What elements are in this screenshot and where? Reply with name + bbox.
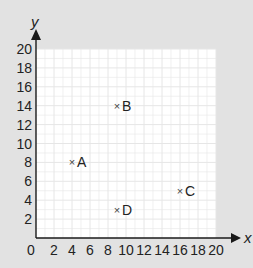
point-label-c: C [185, 183, 195, 199]
point-marker-icon: × [114, 204, 120, 216]
y-tick-label: 4 [24, 192, 32, 208]
point-marker-icon: × [69, 156, 75, 168]
y-tick-label: 18 [16, 60, 32, 76]
y-tick-label: 10 [16, 136, 32, 152]
point-label-a: A [77, 154, 87, 170]
y-tick-label: 2 [24, 211, 32, 227]
point-label-d: D [122, 202, 132, 218]
x-tick-label: 2 [50, 242, 58, 258]
y-tick-label: 6 [24, 173, 32, 189]
point-label-b: B [122, 98, 131, 114]
point-marker-icon: × [177, 185, 183, 197]
y-tick-label: 20 [16, 41, 32, 57]
y-tick-label: 16 [16, 79, 32, 95]
coordinate-grid-chart: xy024681012141618202468101214161820×A×B×… [0, 0, 253, 268]
y-tick-label: 8 [24, 154, 32, 170]
x-tick-label: 10 [118, 242, 134, 258]
x-axis-arrow-icon [231, 233, 241, 243]
y-tick-label: 12 [16, 117, 32, 133]
x-tick-label: 8 [104, 242, 112, 258]
x-axis-label: x [243, 229, 252, 246]
x-tick-label: 14 [154, 242, 170, 258]
x-tick-label: 12 [136, 242, 152, 258]
x-tick-label: 0 [27, 242, 35, 258]
x-tick-label: 4 [68, 242, 76, 258]
y-axis-arrow-icon [31, 29, 41, 40]
plot-area: xy024681012141618202468101214161820×A×B×… [16, 13, 252, 258]
x-tick-label: 16 [172, 242, 188, 258]
y-axis-label: y [30, 13, 40, 30]
point-marker-icon: × [114, 100, 120, 112]
x-tick-label: 6 [86, 242, 94, 258]
x-tick-label: 20 [208, 242, 224, 258]
x-tick-label: 18 [190, 242, 206, 258]
y-tick-label: 14 [16, 98, 32, 114]
